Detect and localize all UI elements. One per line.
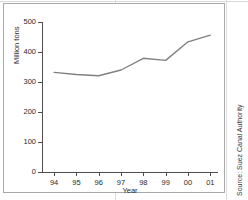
top-divider bbox=[0, 1, 248, 2]
chart-frame: 0100200300400500 9495969798990001 Millio… bbox=[3, 3, 225, 193]
y-tick-label: 200 bbox=[23, 108, 36, 116]
y-tick-label: 0 bbox=[32, 168, 36, 176]
data-series-line bbox=[42, 19, 218, 175]
x-axis-title: Year bbox=[42, 186, 218, 195]
figure-container: 0100200300400500 9495969798990001 Millio… bbox=[0, 0, 248, 200]
y-tick-label: 500 bbox=[23, 18, 36, 26]
series-polyline bbox=[54, 35, 210, 75]
plot-area: 0100200300400500 9495969798990001 bbox=[42, 19, 218, 175]
source-note: Source: Suez Canal Authority bbox=[236, 105, 243, 196]
y-tick-label: 300 bbox=[23, 78, 36, 86]
y-axis-title: Million tons bbox=[12, 26, 21, 64]
column-divider-right bbox=[226, 0, 227, 200]
y-tick-label: 400 bbox=[23, 48, 36, 56]
y-tick-label: 100 bbox=[23, 138, 36, 146]
